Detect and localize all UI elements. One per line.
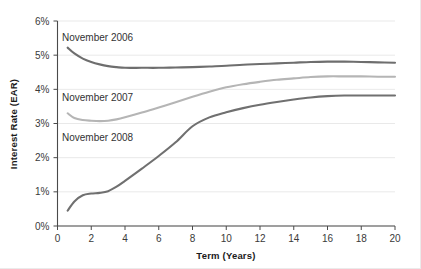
x-tick-label: 14 [288, 233, 300, 244]
x-tick-label: 0 [55, 233, 61, 244]
y-tick-label: 5% [35, 50, 50, 61]
y-axis-title: Interest Rate (EAR) [8, 79, 19, 169]
interest-rate-yield-curve-chart: 0%1%2%3%4%5%6% 02468101214161820 Novembe… [0, 0, 421, 269]
series-annotation-label: November 2007 [62, 92, 134, 103]
series-annotation-label: November 2008 [62, 132, 134, 143]
y-tick-label: 1% [35, 186, 50, 197]
x-tick-label: 6 [156, 233, 162, 244]
x-tick-label: 18 [356, 233, 368, 244]
y-tick-label: 6% [35, 16, 50, 27]
x-tick-label: 16 [322, 233, 334, 244]
y-tick-label: 3% [35, 118, 50, 129]
x-tick-label: 8 [190, 233, 196, 244]
series-annotation-label: November 2006 [62, 32, 134, 43]
x-tick-label: 20 [389, 233, 401, 244]
x-tick-label: 2 [88, 233, 94, 244]
y-tick-label: 0% [35, 221, 50, 232]
y-tick-label: 4% [35, 84, 50, 95]
x-tick-label: 10 [221, 233, 233, 244]
x-tick-label: 12 [254, 233, 266, 244]
x-tick-label: 4 [122, 233, 128, 244]
y-tick-label: 2% [35, 152, 50, 163]
x-axis-title: Term (Years) [196, 250, 255, 261]
chart-canvas: 0%1%2%3%4%5%6% 02468101214161820 Novembe… [0, 0, 421, 269]
